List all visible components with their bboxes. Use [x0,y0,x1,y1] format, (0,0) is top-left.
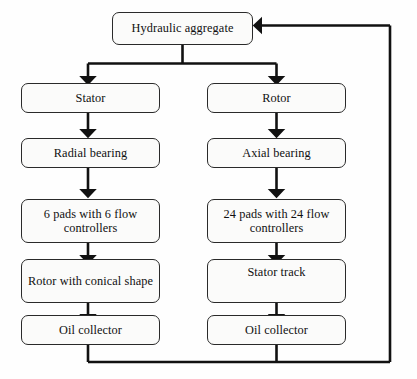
node-rotor-with-conical-shape[interactable]: Rotor with conical shape [21,259,160,303]
node-stator-track[interactable]: Stator track [207,259,346,303]
node-label: Stator track [212,265,341,280]
node-label: 24 pads with 24 flow controllers [212,207,341,236]
node-label: Stator [26,91,155,106]
node-axial-bearing[interactable]: Axial bearing [207,138,346,168]
node-label: Radial bearing [26,146,155,161]
node-rotor[interactable]: Rotor [207,83,346,113]
node-label: Axial bearing [212,146,341,161]
node-label: Oil collector [26,323,155,338]
node-label: Rotor with conical shape [26,274,155,289]
node-label: Hydraulic aggregate [117,21,248,36]
node-label: Oil collector [212,323,341,338]
node-stator[interactable]: Stator [21,83,160,113]
node-hydraulic-aggregate[interactable]: Hydraulic aggregate [112,12,253,45]
flowchart-canvas: Hydraulic aggregate Stator Radial bearin… [0,0,417,379]
node-6-pads-6-flow-controllers[interactable]: 6 pads with 6 flow controllers [21,199,160,243]
node-oil-collector-right[interactable]: Oil collector [207,315,346,345]
node-oil-collector-left[interactable]: Oil collector [21,315,160,345]
node-24-pads-24-flow-controllers[interactable]: 24 pads with 24 flow controllers [207,199,346,243]
node-radial-bearing[interactable]: Radial bearing [21,138,160,168]
node-label: Rotor [212,91,341,106]
node-label: 6 pads with 6 flow controllers [26,207,155,236]
